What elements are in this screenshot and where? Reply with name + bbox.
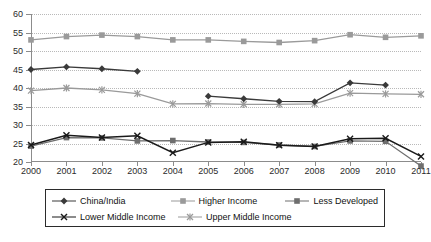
series-china-india <box>28 64 141 75</box>
data-point-diamond <box>61 198 68 205</box>
data-point-diamond <box>63 64 70 71</box>
x-axis-label: 2006 <box>234 166 254 176</box>
data-point-square <box>99 32 105 38</box>
legend-label: Upper Middle Income <box>206 213 292 222</box>
data-point-square <box>241 39 247 45</box>
data-point-asterisk <box>187 213 193 220</box>
data-point-square <box>135 138 141 144</box>
y-axis-label: 35 <box>0 102 23 112</box>
data-point-square <box>205 37 211 43</box>
legend-row: Lower Middle IncomeUpper Middle Income <box>52 209 378 225</box>
y-axis-label: 40 <box>0 83 23 93</box>
x-axis-label: 2000 <box>21 166 41 176</box>
data-point-square <box>383 35 389 41</box>
data-point-cross <box>418 153 424 159</box>
chart-legend: China/IndiaHigher IncomeLess DevelopedLo… <box>45 189 385 227</box>
series-less-developed-upper-segment <box>205 79 389 105</box>
data-point-square <box>28 37 34 43</box>
legend-marker-diamond-icon <box>52 195 76 207</box>
series-higher-income <box>28 32 424 45</box>
data-point-square <box>312 38 318 44</box>
series-lower-middle-income <box>28 132 424 159</box>
data-point-square <box>180 198 186 204</box>
y-axis-label: 20 <box>0 157 23 167</box>
x-axis-label: 2007 <box>269 166 289 176</box>
y-axis-label: 60 <box>0 9 23 19</box>
legend-item-upper-middle-income[interactable]: Upper Middle Income <box>178 211 300 223</box>
x-axis-label: 2002 <box>92 166 112 176</box>
data-point-square <box>276 40 282 46</box>
legend-marker-square-icon <box>171 195 195 207</box>
legend-label: Less Developed <box>313 197 378 206</box>
x-axis-label: 2001 <box>56 166 76 176</box>
data-point-square <box>170 37 176 43</box>
x-axis-label: 2004 <box>163 166 183 176</box>
data-point-square <box>295 198 301 204</box>
legend-row: China/IndiaHigher IncomeLess Developed <box>52 193 378 209</box>
legend-item-less-developed[interactable]: Less Developed <box>285 195 378 207</box>
y-axis-label: 45 <box>0 65 23 75</box>
legend-label: Lower Middle Income <box>80 213 166 222</box>
x-axis-label: 2008 <box>305 166 325 176</box>
legend-item-lower-middle-income[interactable]: Lower Middle Income <box>52 211 178 223</box>
legend-item-higher-income[interactable]: Higher Income <box>171 195 286 207</box>
series-upper-middle-income <box>28 84 424 107</box>
data-point-diamond <box>382 82 389 89</box>
data-point-diamond <box>347 79 354 86</box>
data-point-square <box>170 138 176 144</box>
legend-label: China/India <box>80 197 126 206</box>
data-point-square <box>135 34 141 40</box>
legend-marker-cross-icon <box>52 211 76 223</box>
data-point-cross <box>61 214 67 220</box>
x-axis-label: 2003 <box>127 166 147 176</box>
x-axis-label: 2009 <box>340 166 360 176</box>
y-axis-label: 30 <box>0 120 23 130</box>
y-axis-label: 55 <box>0 28 23 38</box>
data-point-diamond <box>28 66 35 73</box>
data-point-square <box>347 32 353 38</box>
y-axis-label: 50 <box>0 46 23 56</box>
series-layer <box>31 14 421 162</box>
data-point-square <box>418 33 424 39</box>
data-point-diamond <box>205 93 212 100</box>
x-axis-label: 2005 <box>198 166 218 176</box>
legend-marker-square-icon <box>285 195 309 207</box>
legend-item-china-india[interactable]: China/India <box>52 195 171 207</box>
data-point-diamond <box>99 65 106 72</box>
series-less-developed <box>28 135 424 169</box>
y-axis-label: 25 <box>0 139 23 149</box>
x-axis-label: 2011 <box>411 166 430 176</box>
x-axis-label: 2010 <box>376 166 396 176</box>
data-point-diamond <box>134 68 141 75</box>
data-point-square <box>64 34 70 40</box>
legend-label: Higher Income <box>199 197 258 206</box>
legend-marker-asterisk-icon <box>178 211 202 223</box>
plot-area <box>31 14 421 162</box>
